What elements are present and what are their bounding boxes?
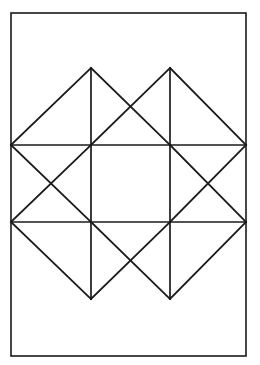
- diagonal-top-left-outer: [11, 68, 91, 145]
- outer-rectangle: [11, 13, 246, 356]
- geometric-figure: [0, 0, 260, 365]
- diagonal-top-right-outer: [170, 68, 246, 145]
- diagonal-bottom-left-outer: [11, 222, 91, 299]
- diagonal-bottom-right-outer: [170, 222, 246, 299]
- figure-canvas: [0, 0, 260, 365]
